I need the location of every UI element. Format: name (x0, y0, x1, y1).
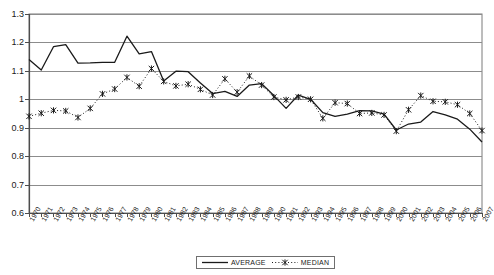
legend-item-average: AVERAGE (202, 258, 266, 267)
median-data-point-marker (282, 259, 287, 265)
legend-item-median: MEDIAN (272, 258, 329, 267)
chart-legend: AVERAGEMEDIAN (196, 256, 335, 269)
y-axis-tick-label: 1.3 (0, 10, 24, 19)
y-axis-tick-label: 1.2 (0, 38, 24, 47)
y-axis-tick-label: 0.7 (0, 181, 24, 190)
y-axis-tick-label: 0.6 (0, 209, 24, 218)
legend-swatch-median (272, 258, 298, 267)
y-axis-tick-label: 0.9 (0, 124, 24, 133)
y-axis-tick-label: 1 (0, 95, 24, 104)
legend-label: AVERAGE (231, 259, 266, 266)
y-axis-tick-label: 0.8 (0, 152, 24, 161)
plot-frame (29, 14, 482, 213)
legend-label: MEDIAN (301, 259, 329, 266)
y-axis-tick-label: 1.1 (0, 67, 24, 76)
legend-swatch-average (202, 258, 228, 267)
